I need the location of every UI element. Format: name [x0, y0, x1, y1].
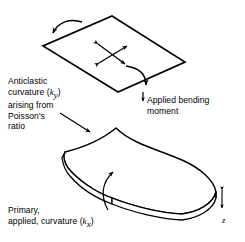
anticlastic-line-4: Poisson's: [8, 111, 61, 122]
anticlastic-line-2-suffix: ): [58, 87, 61, 97]
primary-line-2-prefix: applied, curvature (: [8, 216, 83, 226]
anticlastic-line-5: ratio: [8, 121, 61, 132]
anticlastic-line-1: Anticlastic: [8, 76, 61, 87]
label-z-axis: z: [222, 215, 225, 225]
primary-line-2: applied, curvature (kx): [8, 216, 94, 229]
anticlastic-line-3: arising from: [8, 100, 61, 111]
label-primary-curvature: Primary, applied, curvature (kx): [8, 205, 94, 229]
primary-line-1: Primary,: [8, 205, 94, 216]
label-applied-bending-moment: Applied bending moment: [147, 95, 209, 116]
applied-moment-line-2: moment: [147, 106, 209, 117]
anticlastic-curvature-figure: Anticlastic curvature (ky) arising from …: [0, 0, 245, 242]
primary-line-2-suffix: ): [91, 216, 94, 226]
leader-anticlastic: [60, 113, 90, 132]
applied-moment-line-1: Applied bending: [147, 95, 209, 106]
anticlastic-line-2: curvature (ky): [8, 87, 61, 100]
anticlastic-line-2-prefix: curvature (: [8, 87, 50, 97]
label-anticlastic-curvature: Anticlastic curvature (ky) arising from …: [8, 76, 61, 132]
